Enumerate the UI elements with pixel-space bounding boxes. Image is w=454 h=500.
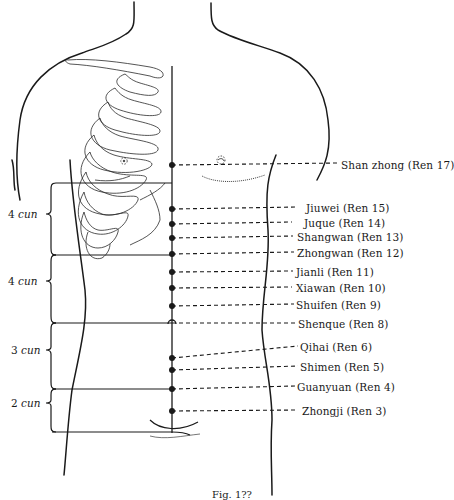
- label-shanzhong: Shan zhong (Ren 17): [341, 159, 454, 171]
- cun-label-2: 4 cun: [8, 275, 37, 287]
- label-jianli: Jianli (Ren 11): [296, 266, 374, 278]
- cun-label-4: 2 cun: [11, 397, 40, 409]
- label-qihai: Qihai (Ren 6): [300, 341, 372, 353]
- figure-caption: Fig. 1??: [212, 489, 252, 500]
- torso-outline: [12, 2, 329, 495]
- rib-cage: [66, 59, 165, 258]
- point-ren-3: [169, 408, 175, 414]
- label-shenque: Shenque (Ren 8): [298, 318, 389, 330]
- point-ren-5: [169, 367, 175, 373]
- point-ren-14: [169, 221, 175, 227]
- cun-measure-lines: [46, 183, 200, 438]
- label-juque: Juque (Ren 14): [304, 217, 385, 229]
- cun-label-1: 4 cun: [8, 208, 37, 220]
- label-zhongwan: Zhongwan (Ren 12): [297, 247, 404, 259]
- right-chest: [202, 156, 265, 182]
- point-ren-15: [169, 206, 175, 212]
- point-ren-4: [169, 386, 175, 392]
- point-ren-9: [169, 303, 175, 309]
- point-ren-6: [169, 355, 175, 361]
- label-shuifen: Shuifen (Ren 9): [296, 299, 381, 311]
- point-ren-10: [169, 285, 175, 291]
- label-shimen: Shimen (Ren 5): [300, 361, 384, 373]
- point-ren-12: [169, 251, 175, 257]
- point-ren-17: [169, 162, 175, 168]
- label-jiuwei: Jiuwei (Ren 15): [306, 202, 390, 214]
- point-ren-13: [169, 235, 175, 241]
- point-ren-11: [169, 269, 175, 275]
- label-shangwan: Shangwan (Ren 13): [297, 231, 404, 243]
- label-xiawan: Xiawan (Ren 10): [296, 282, 386, 294]
- label-guanyuan: Guanyuan (Ren 4): [297, 381, 395, 393]
- label-zhongji: Zhongji (Ren 3): [302, 405, 386, 417]
- cun-label-3: 3 cun: [11, 344, 40, 356]
